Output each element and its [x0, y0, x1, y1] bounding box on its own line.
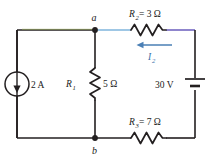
r3-name-label: R [128, 117, 135, 127]
node-b-label: b [92, 145, 97, 156]
current-source-symbol [5, 72, 29, 96]
r3-resistor-symbol [131, 133, 166, 144]
circuit-schematic: 2 A R 1 5 Ω R 2 = 3 Ω I 2 R 3 = 7 Ω [0, 0, 211, 158]
node-dot-b [92, 135, 98, 141]
r2-zigzag-icon [131, 25, 166, 36]
current-source-value-label: 2 A [31, 80, 45, 90]
i2-current-arrow-icon [137, 42, 173, 48]
voltage-source-value-label: 30 V [155, 80, 174, 90]
r3-zigzag-icon [131, 133, 166, 144]
r1-resistor-symbol [90, 68, 100, 100]
voltage-source-symbol [185, 79, 205, 86]
r2-value-label: = 3 Ω [139, 9, 161, 19]
r2-name-label: R [128, 9, 135, 19]
node-dot-a [92, 27, 98, 33]
i2-arrow-head [137, 42, 144, 48]
i2-label-subscript: 2 [152, 57, 156, 64]
r1-name-label: R [65, 79, 72, 89]
r2-resistor-symbol [131, 25, 166, 36]
r1-name-subscript: 1 [73, 84, 76, 91]
r1-value-label: 5 Ω [103, 79, 117, 89]
node-a-label: a [92, 12, 97, 23]
r1-zigzag-icon [90, 68, 100, 100]
circuit-diagram-page: 2 A R 1 5 Ω R 2 = 3 Ω I 2 R 3 = 7 Ω [0, 0, 211, 158]
r3-value-label: = 7 Ω [139, 117, 161, 127]
